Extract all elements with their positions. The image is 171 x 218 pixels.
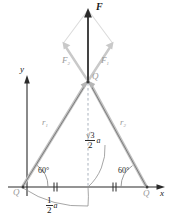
construction-line-left — [64, 10, 89, 43]
force-2-subscript: 2 — [68, 61, 71, 66]
diagram-canvas — [0, 0, 171, 218]
charge-label-left: Q — [13, 188, 20, 197]
force-1-subscript: 1 — [107, 61, 110, 66]
charge-dot-left — [22, 186, 25, 189]
half-base-fraction: 1 2 — [46, 196, 53, 216]
charge-label-apex: Q — [92, 72, 99, 81]
height-measure-arc — [88, 145, 105, 187]
force-1-symbol: F — [101, 55, 107, 65]
x-axis-label: x — [160, 189, 164, 198]
height-fraction: √3 2 — [85, 132, 95, 151]
angle-label-right: 60° — [118, 167, 129, 175]
r2-symbol: r — [120, 117, 124, 127]
height-denominator: 2 — [85, 141, 95, 150]
physics-force-diagram: F F1 F2 Q y x r1 r2 √3 2 a 60° 60° Q Q 1… — [0, 0, 171, 218]
force-2-symbol: F — [62, 55, 68, 65]
half-base-variable: a — [53, 201, 58, 210]
construction-line-right — [88, 10, 113, 43]
r2-label: r2 — [120, 118, 126, 127]
r1-symbol: r — [42, 117, 46, 127]
half-base-label: 1 2 a — [46, 196, 58, 216]
resultant-force-vector — [84, 8, 92, 82]
height-variable: a — [95, 136, 100, 145]
r2-subscript: 2 — [124, 123, 127, 128]
angle-label-left: 60° — [38, 167, 49, 175]
r1-edge — [23, 83, 87, 186]
r1-subscript: 1 — [46, 123, 49, 128]
charge-dot-apex — [86, 80, 89, 83]
y-axis-arrowhead — [24, 75, 30, 84]
half-base-denominator: 2 — [46, 206, 53, 215]
triangle-height-label: √3 2 a — [85, 132, 100, 151]
force-1-label: F1 — [101, 56, 109, 65]
charge-label-right: Q — [143, 189, 150, 198]
f-arrowhead — [84, 8, 92, 18]
force-2-label: F2 — [62, 56, 70, 65]
resultant-force-label: F — [96, 2, 103, 12]
ray-r1 — [23, 81, 89, 187]
r1-label: r1 — [42, 118, 48, 127]
y-axis-label: y — [20, 65, 24, 74]
x-axis — [8, 184, 165, 190]
